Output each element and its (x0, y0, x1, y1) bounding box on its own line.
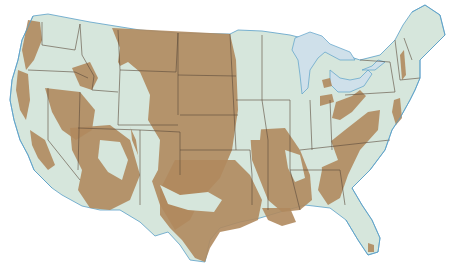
us-map (0, 0, 459, 279)
map-caption (130, 271, 450, 279)
